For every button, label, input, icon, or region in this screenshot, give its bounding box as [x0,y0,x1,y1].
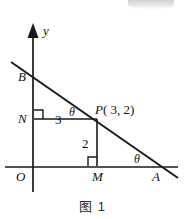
length-label-pm: 2 [82,137,89,150]
figure-caption-prefix: 图 [79,199,93,214]
point-label-p-with-coordinates: P( 3, 2) [95,103,134,116]
point-label-m: M [92,170,103,183]
point-label-p: P [95,102,103,117]
line-BA [11,62,178,178]
point-label-a: A [152,170,160,183]
point-label-origin: O [16,170,25,183]
geometry-drawing [0,0,185,219]
figure-caption: 图 1 [0,196,185,215]
point-label-n: N [18,112,27,125]
point-label-b: B [18,70,26,83]
point-p-coordinate-text: ( 3, 2) [103,102,134,117]
figure-caption-number: 1 [98,199,106,214]
right-angle-marker-M-icon [88,157,97,166]
figure-container: y B N O M A P( 3, 2) 3 2 θ θ 图 1 [0,0,185,219]
length-label-np: 3 [55,113,62,126]
y-axis-arrow-icon [28,23,39,38]
angle-label-theta-at-a: θ [134,153,140,165]
y-axis-label: y [43,24,49,37]
angle-label-theta-at-p: θ [69,106,75,118]
right-angle-marker-N-icon [34,110,43,119]
